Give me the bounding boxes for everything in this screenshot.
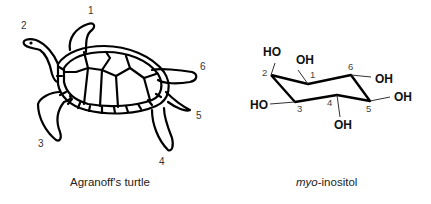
hydroxyl-c5: OH: [394, 91, 412, 103]
hydroxyl-c4: OH: [334, 119, 352, 131]
inositol-caption: myo-inositol: [296, 176, 357, 188]
limb-label-5: 5: [196, 111, 202, 121]
hydroxyl-c1: OH: [296, 54, 314, 66]
carbon-label-3: 3: [297, 104, 302, 114]
inositol-figure: HO OH OH OH HO OH 1 2 3 4 5 6 myo-inosit…: [215, 0, 431, 204]
hydroxyl-c2: HO: [263, 46, 281, 58]
caption-rest: -inositol: [318, 176, 358, 188]
carbon-label-2: 2: [262, 68, 267, 78]
carbon-label-4: 4: [327, 98, 332, 108]
limb-label-6: 6: [200, 62, 206, 72]
turtle-figure: 1 2 3 4 5 6 Agranoff's turtle: [0, 0, 215, 204]
limb-label-1: 1: [88, 6, 94, 16]
caption-italic-prefix: myo: [296, 176, 318, 188]
turtle-caption: Agranoff's turtle: [70, 176, 150, 188]
limb-label-2: 2: [21, 21, 27, 31]
limb-label-3: 3: [38, 139, 44, 149]
carbon-label-1: 1: [310, 70, 315, 80]
turtle-drawing: [0, 0, 215, 204]
carbon-label-6: 6: [348, 62, 353, 72]
hydroxyl-c3: HO: [250, 99, 268, 111]
hydroxyl-c6: OH: [375, 73, 393, 85]
limb-label-4: 4: [159, 157, 165, 167]
carbon-label-5: 5: [366, 104, 371, 114]
